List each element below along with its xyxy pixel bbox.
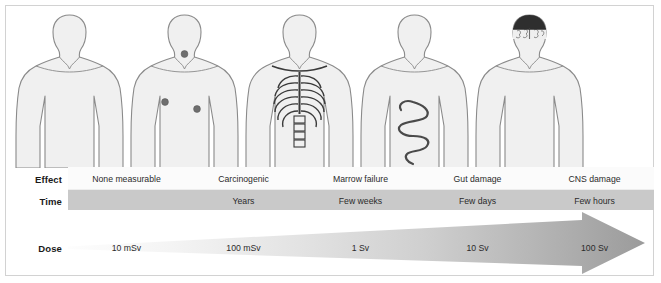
row-label-effect: Effect — [4, 174, 62, 185]
dose-value-4: 10 Sv — [419, 243, 536, 253]
effect-value-2: Carcinogenic — [185, 174, 302, 184]
human-body-tumours — [127, 6, 242, 168]
time-value-4: Few days — [419, 196, 536, 206]
time-value-5: Few hours — [536, 196, 653, 206]
time-value-2: Years — [185, 196, 302, 206]
row-label-dose: Dose — [4, 243, 62, 254]
effect-value-3: Marrow failure — [302, 174, 419, 184]
body-figures-row — [6, 6, 654, 168]
dose-value-3: 1 Sv — [302, 243, 419, 253]
effect-value-5: CNS damage — [536, 174, 653, 184]
time-value-3: Few weeks — [302, 196, 419, 206]
dose-value-1: 10 mSv — [68, 243, 185, 253]
human-body-ribcage — [242, 6, 357, 168]
effect-value-4: Gut damage — [419, 174, 536, 184]
human-body-brain — [472, 6, 587, 168]
dose-value-5: 100 Sv — [536, 243, 653, 253]
radiation-dose-diagram: Effect None measurable Carcinogenic Marr… — [0, 0, 661, 283]
effect-value-1: None measurable — [68, 174, 185, 184]
human-body-intestines — [357, 6, 472, 168]
row-label-time: Time — [4, 196, 62, 207]
dose-value-2: 100 mSv — [185, 243, 302, 253]
human-body-plain — [12, 6, 127, 168]
